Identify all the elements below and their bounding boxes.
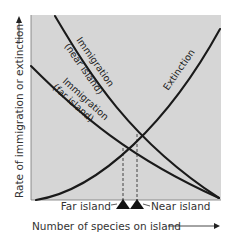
- far-island-triangle-icon: [116, 199, 130, 209]
- near-island-label: Near island: [151, 200, 210, 212]
- near-island-triangle-icon: [130, 199, 144, 209]
- island-biogeography-chart: Immigration (near island) Immigration (f…: [0, 0, 230, 237]
- far-island-pointer-line: [111, 204, 117, 205]
- y-axis-label: Rate of immigration or extinction: [13, 24, 25, 198]
- x-axis-arrow-icon: [214, 223, 220, 229]
- plot-area: [31, 15, 221, 200]
- far-island-label: Far island: [61, 200, 111, 212]
- y-axis-arrow-icon: [16, 16, 22, 23]
- near-island-pointer-line: [143, 204, 150, 206]
- x-axis-label: Number of species on island: [32, 220, 181, 232]
